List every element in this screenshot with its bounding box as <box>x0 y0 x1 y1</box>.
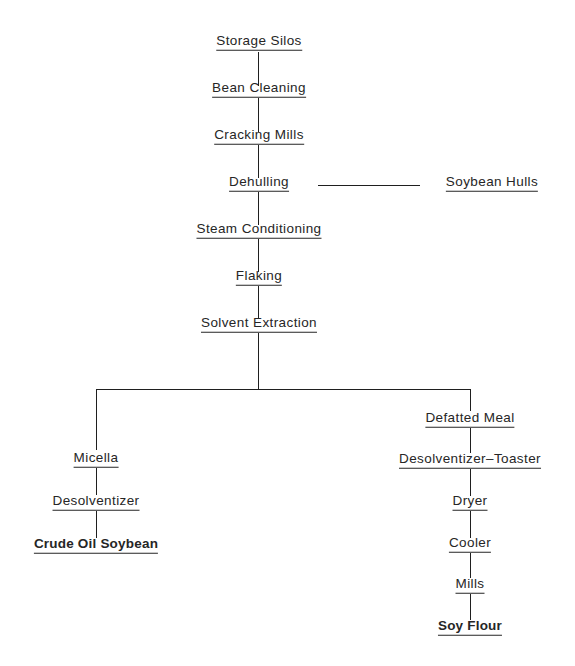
node-micella[interactable]: Micella <box>74 451 119 468</box>
node-crude-oil-soybean[interactable]: Crude Oil Soybean <box>34 537 158 554</box>
node-mills[interactable]: Mills <box>456 577 485 594</box>
node-cracking-mills[interactable]: Cracking Mills <box>214 128 304 145</box>
node-flaking[interactable]: Flaking <box>236 269 282 286</box>
node-soy-flour[interactable]: Soy Flour <box>438 619 502 636</box>
node-desolventizer[interactable]: Desolventizer <box>53 494 140 511</box>
edge-desolventizer-to-crude-oil-soybean <box>96 511 97 538</box>
edge-defatted-meal-to-desolventizer-toaster <box>470 428 471 453</box>
node-steam-conditioning[interactable]: Steam Conditioning <box>196 222 321 239</box>
node-cooler[interactable]: Cooler <box>449 536 491 553</box>
edge-split-to-defatted-meal <box>470 389 471 411</box>
edge-cooler-to-mills <box>470 553 471 578</box>
flowchart-canvas: Storage Silos Bean Cleaning Cracking Mil… <box>0 0 575 666</box>
edge-split-to-micella <box>96 389 97 450</box>
node-soybean-hulls[interactable]: Soybean Hulls <box>446 175 538 192</box>
node-storage-silos[interactable]: Storage Silos <box>216 34 302 51</box>
node-desolventizer-toaster[interactable]: Desolventizer–Toaster <box>399 452 541 469</box>
edge-mills-to-soy-flour <box>470 594 471 620</box>
node-defatted-meal[interactable]: Defatted Meal <box>425 411 514 428</box>
edge-dehulling-to-soybean-hulls <box>318 185 420 186</box>
split-bar-solvent-extraction <box>96 389 471 390</box>
node-bean-cleaning[interactable]: Bean Cleaning <box>212 81 306 98</box>
edge-solvent-extraction-to-split <box>258 333 259 390</box>
edge-micella-to-desolventizer <box>96 468 97 495</box>
node-dehulling[interactable]: Dehulling <box>229 175 289 192</box>
node-solvent-extraction[interactable]: Solvent Extraction <box>201 316 317 333</box>
node-dryer[interactable]: Dryer <box>453 494 488 511</box>
